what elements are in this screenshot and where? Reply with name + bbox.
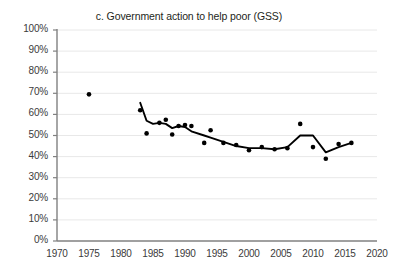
data-point xyxy=(234,143,239,148)
data-point xyxy=(87,92,92,97)
data-point xyxy=(272,147,277,152)
trend-line-path xyxy=(140,103,351,153)
y-axis-tick-label: 50% xyxy=(8,129,48,140)
y-axis-tick-label: 100% xyxy=(8,23,48,34)
data-point xyxy=(221,141,226,146)
data-point xyxy=(202,141,207,146)
data-point xyxy=(157,121,162,126)
y-axis-tick-label: 60% xyxy=(8,107,48,118)
data-point xyxy=(336,142,341,147)
data-point xyxy=(349,141,354,146)
data-point xyxy=(260,145,265,150)
data-point xyxy=(298,122,303,127)
data-point xyxy=(311,145,316,150)
y-axis-tick-label: 20% xyxy=(8,192,48,203)
data-point xyxy=(189,124,194,129)
data-point xyxy=(176,124,181,129)
data-point xyxy=(183,123,188,128)
gridlines xyxy=(57,30,377,220)
y-axis-tick-label: 30% xyxy=(8,171,48,182)
data-point xyxy=(164,117,169,122)
y-axis-tick-label: 0% xyxy=(8,234,48,245)
data-point xyxy=(324,156,329,161)
data-point xyxy=(247,148,252,153)
y-axis-tick-label: 70% xyxy=(8,86,48,97)
x-axis-tick-label: 2020 xyxy=(357,248,393,259)
data-points xyxy=(87,92,354,161)
data-point xyxy=(208,128,213,133)
data-point xyxy=(138,108,143,113)
y-axis-tick-label: 90% xyxy=(8,44,48,55)
y-axis-tick-label: 10% xyxy=(8,213,48,224)
y-axis-tick-label: 40% xyxy=(8,150,48,161)
trend-line xyxy=(140,103,351,153)
y-axis-tick-label: 80% xyxy=(8,65,48,76)
data-point xyxy=(144,131,149,136)
data-point xyxy=(170,132,175,137)
data-point xyxy=(285,146,290,151)
